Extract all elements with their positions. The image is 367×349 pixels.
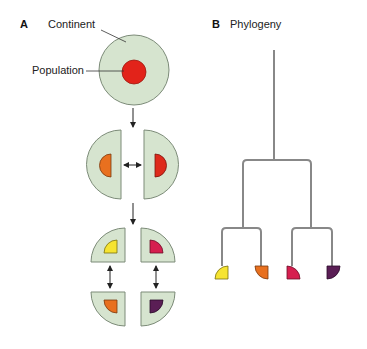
diagram-canvas: [0, 0, 367, 349]
phylogeny-tree: [222, 50, 332, 266]
tip-orange: [255, 266, 268, 279]
tip-purple: [327, 266, 340, 279]
tip-crimson: [287, 266, 300, 279]
tip-yellow: [215, 266, 228, 279]
internal-branches: [243, 160, 311, 228]
continent-leader-line: [101, 30, 126, 42]
stage-2-halves: [87, 130, 179, 199]
clade-right-branches: [292, 228, 332, 266]
stage-3-quarters: [91, 228, 175, 326]
stage-1-continent: [86, 30, 169, 105]
clade-left-branches: [222, 228, 261, 266]
population-circle: [122, 60, 146, 84]
phylogeny-tips: [215, 266, 340, 279]
